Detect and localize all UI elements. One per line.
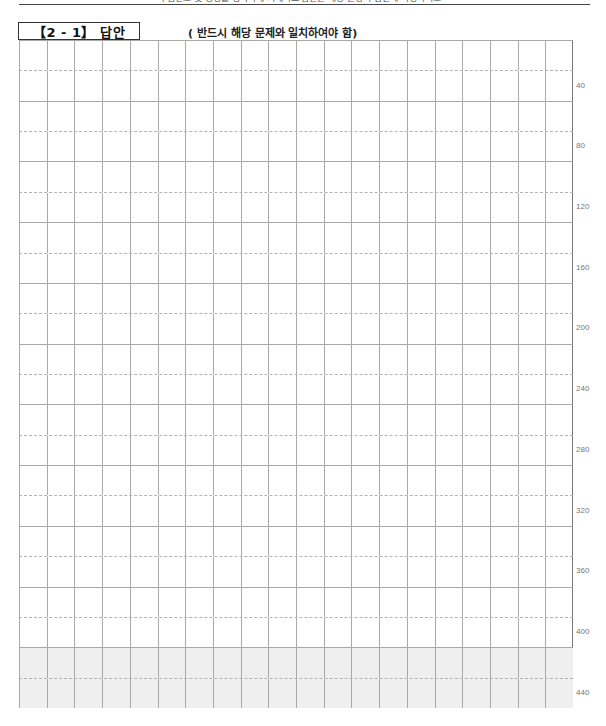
grid-cell[interactable] — [102, 284, 130, 313]
grid-cell[interactable] — [19, 679, 47, 708]
grid-cell[interactable] — [74, 314, 102, 343]
grid-cell[interactable] — [379, 466, 407, 495]
grid-cell[interactable] — [490, 466, 518, 495]
grid-cell[interactable] — [241, 466, 269, 495]
grid-cell[interactable] — [19, 557, 47, 586]
grid-cell[interactable] — [296, 162, 324, 191]
grid-cell[interactable] — [74, 102, 102, 131]
grid-cell[interactable] — [545, 132, 573, 161]
grid-cell[interactable] — [518, 375, 546, 404]
grid-cell[interactable] — [462, 618, 490, 647]
grid-cell[interactable] — [158, 41, 186, 70]
grid-cell[interactable] — [185, 102, 213, 131]
grid-cell[interactable] — [518, 193, 546, 222]
grid-cell[interactable] — [407, 375, 435, 404]
grid-cell[interactable] — [545, 588, 573, 617]
grid-cell[interactable] — [241, 284, 269, 313]
grid-cell[interactable] — [241, 223, 269, 252]
grid-cell[interactable] — [19, 588, 47, 617]
grid-cell[interactable] — [185, 496, 213, 525]
grid-cell[interactable] — [102, 345, 130, 374]
grid-cell[interactable] — [158, 588, 186, 617]
grid-cell[interactable] — [296, 557, 324, 586]
grid-cell[interactable] — [213, 588, 241, 617]
grid-cell[interactable] — [19, 254, 47, 283]
grid-cell[interactable] — [545, 162, 573, 191]
grid-cell[interactable] — [47, 618, 75, 647]
grid-cell[interactable] — [296, 102, 324, 131]
grid-cell[interactable] — [518, 41, 546, 70]
grid-cell[interactable] — [435, 679, 463, 708]
grid-cell[interactable] — [462, 41, 490, 70]
grid-cell[interactable] — [102, 679, 130, 708]
grid-cell[interactable] — [213, 102, 241, 131]
grid-cell[interactable] — [518, 618, 546, 647]
grid-cell[interactable] — [74, 193, 102, 222]
grid-cell[interactable] — [518, 132, 546, 161]
grid-cell[interactable] — [158, 648, 186, 677]
grid-cell[interactable] — [47, 132, 75, 161]
grid-cell[interactable] — [268, 314, 296, 343]
grid-cell[interactable] — [47, 41, 75, 70]
grid-cell[interactable] — [351, 284, 379, 313]
grid-cell[interactable] — [324, 41, 352, 70]
grid-cell[interactable] — [213, 71, 241, 100]
grid-cell[interactable] — [296, 254, 324, 283]
manuscript-grid[interactable] — [19, 40, 573, 708]
grid-cell[interactable] — [74, 132, 102, 161]
grid-cell[interactable] — [47, 436, 75, 465]
grid-cell[interactable] — [74, 527, 102, 556]
grid-cell[interactable] — [324, 436, 352, 465]
grid-cell[interactable] — [185, 132, 213, 161]
grid-cell[interactable] — [102, 71, 130, 100]
grid-cell[interactable] — [158, 496, 186, 525]
grid-cell[interactable] — [462, 648, 490, 677]
grid-cell[interactable] — [102, 254, 130, 283]
grid-cell[interactable] — [213, 527, 241, 556]
grid-cell[interactable] — [268, 466, 296, 495]
grid-cell[interactable] — [158, 466, 186, 495]
grid-cell[interactable] — [379, 223, 407, 252]
grid-cell[interactable] — [268, 284, 296, 313]
grid-cell[interactable] — [351, 41, 379, 70]
grid-cell[interactable] — [351, 557, 379, 586]
grid-cell[interactable] — [130, 162, 158, 191]
grid-cell[interactable] — [379, 102, 407, 131]
grid-cell[interactable] — [435, 162, 463, 191]
grid-cell[interactable] — [324, 162, 352, 191]
grid-cell[interactable] — [47, 527, 75, 556]
grid-cell[interactable] — [19, 71, 47, 100]
grid-cell[interactable] — [462, 436, 490, 465]
grid-cell[interactable] — [379, 41, 407, 70]
grid-cell[interactable] — [241, 162, 269, 191]
grid-cell[interactable] — [241, 588, 269, 617]
grid-cell[interactable] — [130, 345, 158, 374]
grid-cell[interactable] — [407, 679, 435, 708]
grid-cell[interactable] — [268, 405, 296, 434]
grid-cell[interactable] — [407, 436, 435, 465]
grid-cell[interactable] — [130, 618, 158, 647]
grid-cell[interactable] — [47, 162, 75, 191]
grid-cell[interactable] — [296, 345, 324, 374]
grid-cell[interactable] — [490, 284, 518, 313]
grid-cell[interactable] — [47, 284, 75, 313]
grid-cell[interactable] — [435, 254, 463, 283]
grid-cell[interactable] — [545, 102, 573, 131]
grid-cell[interactable] — [379, 405, 407, 434]
grid-cell[interactable] — [130, 496, 158, 525]
grid-cell[interactable] — [379, 314, 407, 343]
grid-cell[interactable] — [351, 345, 379, 374]
grid-cell[interactable] — [268, 436, 296, 465]
grid-cell[interactable] — [296, 527, 324, 556]
grid-cell[interactable] — [47, 466, 75, 495]
grid-cell[interactable] — [407, 41, 435, 70]
grid-cell[interactable] — [324, 527, 352, 556]
grid-cell[interactable] — [435, 41, 463, 70]
grid-cell[interactable] — [462, 496, 490, 525]
grid-cell[interactable] — [158, 223, 186, 252]
grid-cell[interactable] — [435, 102, 463, 131]
grid-cell[interactable] — [490, 436, 518, 465]
grid-cell[interactable] — [241, 618, 269, 647]
grid-cell[interactable] — [324, 254, 352, 283]
grid-cell[interactable] — [351, 314, 379, 343]
